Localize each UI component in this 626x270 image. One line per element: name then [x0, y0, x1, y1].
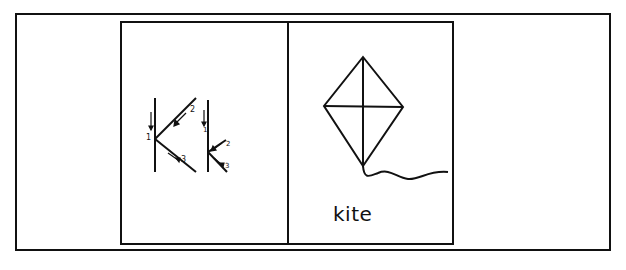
picture-word: kite [333, 202, 372, 226]
letter-k-stroke-guide: 1 2 3 1 2 3 [0, 0, 626, 270]
svg-text:3: 3 [225, 162, 229, 170]
kite-illustration [324, 57, 448, 179]
svg-text:1: 1 [146, 133, 151, 142]
svg-text:2: 2 [190, 105, 195, 114]
svg-text:3: 3 [181, 155, 186, 164]
svg-text:1: 1 [203, 126, 207, 134]
svg-text:2: 2 [226, 140, 230, 148]
